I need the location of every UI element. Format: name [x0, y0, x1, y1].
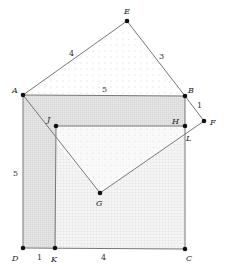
- label-E: E: [123, 7, 130, 16]
- length-DK: 1: [37, 253, 42, 262]
- point-E: [125, 19, 130, 24]
- point-A: [21, 93, 26, 98]
- point-K: [53, 246, 58, 251]
- label-C: C: [186, 254, 192, 263]
- label-G: G: [96, 199, 103, 208]
- length-BF: 1: [197, 101, 202, 110]
- point-G: [98, 191, 103, 196]
- length-KC: 4: [101, 253, 106, 262]
- label-D: D: [11, 254, 19, 263]
- point-H: [183, 124, 188, 129]
- length-AD: 5: [13, 169, 18, 178]
- length-EB: 3: [159, 52, 164, 61]
- label-F: F: [209, 118, 216, 127]
- point-F: [202, 119, 207, 124]
- point-B: [183, 94, 188, 99]
- length-AB: 5: [102, 85, 107, 94]
- point-C: [183, 247, 188, 252]
- label-K: K: [50, 255, 58, 264]
- length-AE: 4: [69, 49, 74, 58]
- geometry-diagram: E A B F J H L G D K C 4 3 5 1 5 1 4: [0, 0, 226, 269]
- point-J: [54, 124, 59, 129]
- label-B: B: [187, 86, 194, 95]
- point-D: [21, 246, 26, 251]
- label-L: L: [185, 134, 191, 143]
- label-H: H: [171, 117, 180, 126]
- label-A: A: [11, 86, 18, 95]
